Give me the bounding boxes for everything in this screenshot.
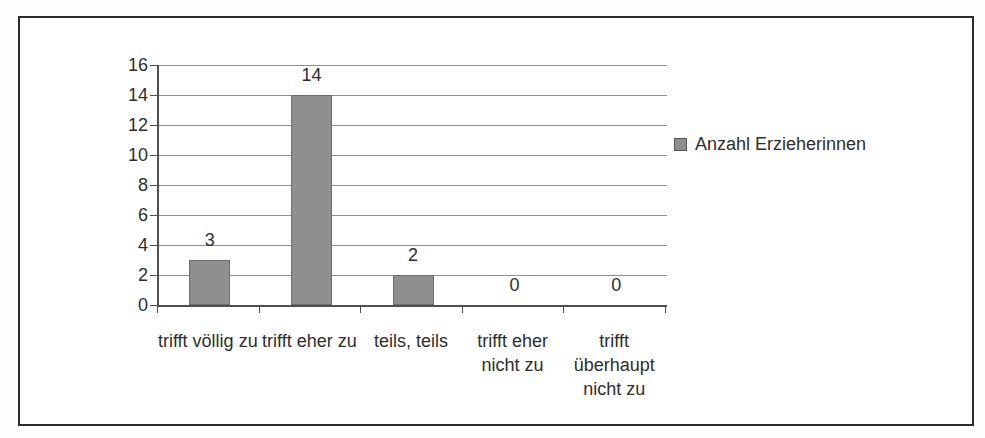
y-axis-tick-label: 6 xyxy=(108,204,148,226)
gridline xyxy=(159,185,667,186)
bar-value-label: 2 xyxy=(362,245,464,265)
legend: Anzahl Erzieherinnen xyxy=(674,134,866,155)
y-axis-tick xyxy=(150,275,157,276)
y-axis-tick-label: 16 xyxy=(108,54,148,76)
gridline xyxy=(159,65,667,66)
y-axis-tick-label: 0 xyxy=(108,294,148,316)
y-axis-tick xyxy=(150,305,157,306)
y-axis-tick-label: 2 xyxy=(108,264,148,286)
y-axis-tick-label: 12 xyxy=(108,114,148,136)
plot-area: 314200 xyxy=(157,65,667,307)
x-axis-tick xyxy=(157,307,158,313)
x-axis-tick xyxy=(259,307,260,313)
bar-value-label: 14 xyxy=(261,65,363,85)
x-axis-tick xyxy=(462,307,463,313)
y-axis-tick-label: 8 xyxy=(108,174,148,196)
x-axis-category-label: trifft überhaupt nicht zu xyxy=(563,329,665,401)
gridline xyxy=(159,155,667,156)
chart-frame: 314200 0246810121416trifft völlig zutrif… xyxy=(18,16,974,426)
x-axis-tick xyxy=(360,307,361,313)
y-axis-tick-label: 14 xyxy=(108,84,148,106)
gridline xyxy=(159,215,667,216)
y-axis-tick-label: 4 xyxy=(108,234,148,256)
x-axis-category-label: trifft völlig zu xyxy=(157,329,259,353)
y-axis-tick xyxy=(150,125,157,126)
y-axis-tick xyxy=(150,245,157,246)
scanned-chart-figure: 314200 0246810121416trifft völlig zutrif… xyxy=(0,0,985,438)
y-axis-tick xyxy=(150,215,157,216)
gridline xyxy=(159,125,667,126)
x-axis-category-label: trifft eher nicht zu xyxy=(462,329,564,377)
x-axis-tick xyxy=(563,307,564,313)
bar xyxy=(393,275,434,305)
y-axis-tick xyxy=(150,185,157,186)
legend-label: Anzahl Erzieherinnen xyxy=(695,134,866,155)
x-axis-tick xyxy=(665,307,666,313)
bar-value-label: 3 xyxy=(159,230,261,250)
y-axis-tick xyxy=(150,155,157,156)
bar-value-label: 0 xyxy=(464,275,566,295)
x-axis-category-label: teils, teils xyxy=(360,329,462,353)
y-axis-tick xyxy=(150,95,157,96)
y-axis-tick xyxy=(150,65,157,66)
gridline xyxy=(159,95,667,96)
bar xyxy=(291,95,332,305)
bar xyxy=(189,260,230,305)
y-axis-tick-label: 10 xyxy=(108,144,148,166)
legend-swatch-icon xyxy=(674,138,687,151)
x-axis-category-label: trifft eher zu xyxy=(259,329,361,353)
bar-value-label: 0 xyxy=(565,275,667,295)
